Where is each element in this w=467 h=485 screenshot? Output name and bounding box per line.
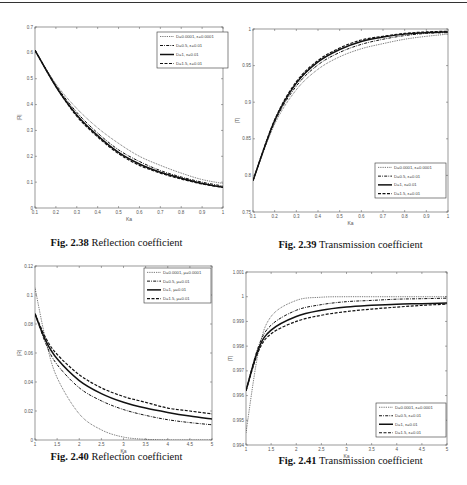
legend-entry-label: D=0.0001, ε=0.0001 [395, 405, 433, 410]
x-tick-label: 2 [295, 447, 298, 452]
x-tick-label: 1.5 [268, 447, 275, 452]
x-tick-label: 5 [446, 447, 449, 452]
y-tick-label: 0.995 [233, 418, 245, 423]
x-tick-label: 3 [345, 447, 348, 452]
figure-title: Transmission coefficient [319, 455, 423, 466]
x-tick-label: 2.5 [318, 447, 325, 452]
y-tick-label: 0.994 [233, 443, 245, 448]
chart-transmission-coefficient-2: 11.522.533.544.550.9940.9950.9960.9970.9… [0, 0, 467, 470]
y-tick-label: 1 [241, 294, 244, 299]
legend-entry-label: D=1, ε=0.01 [395, 422, 418, 427]
figure-number: Fig. 2.41 [278, 455, 316, 466]
y-tick-label: 0.997 [233, 368, 245, 373]
y-tick-label: 0.996 [233, 393, 245, 398]
x-tick-label: 1 [245, 447, 248, 452]
y-axis-label: |T| [227, 356, 233, 362]
y-tick-label: 1.001 [233, 270, 245, 275]
x-tick-label: 4.5 [419, 447, 426, 452]
legend-entry-label: D=1.5, ε=0.01 [395, 430, 422, 435]
x-tick-label: 3.5 [368, 447, 375, 452]
figure-2-41: 11.522.533.544.550.9940.9950.9960.9970.9… [0, 0, 467, 485]
y-tick-label: 0.999 [233, 319, 245, 324]
legend: D=0.0001, ε=0.0001D=0.5, ε=0.01D=1, ε=0.… [376, 403, 446, 437]
y-tick-label: 0.998 [233, 344, 245, 349]
legend-entry-label: D=0.5, ε=0.01 [395, 413, 422, 418]
figure-caption: Fig. 2.41 Transmission coefficient [234, 455, 467, 466]
x-tick-label: 4 [395, 447, 398, 452]
